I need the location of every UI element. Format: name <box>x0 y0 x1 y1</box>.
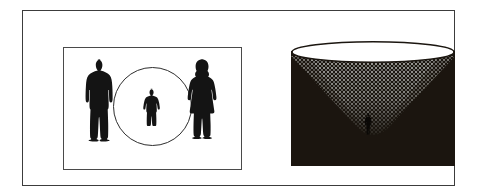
scale-comparison-panel <box>63 47 242 170</box>
cone-rim-ellipse-icon <box>289 40 457 64</box>
inverted-cone-icon <box>291 51 455 166</box>
child-silhouette-icon <box>142 88 164 126</box>
outer-frame <box>22 10 455 186</box>
circle-outline-icon <box>113 67 192 146</box>
halftone-cone-panel <box>291 51 455 166</box>
adult-female-silhouette-icon <box>182 58 224 142</box>
figure-root <box>0 0 477 196</box>
